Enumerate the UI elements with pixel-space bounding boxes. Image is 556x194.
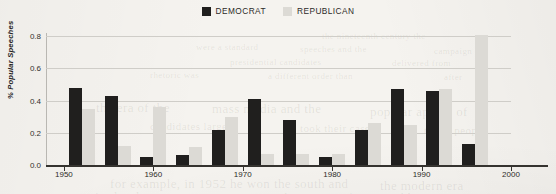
- plot-area: 0.00.20.40.60.8: [46, 33, 511, 165]
- bar-democrat-1988: [391, 89, 404, 165]
- y-axis-tick-label: 0.4: [30, 96, 41, 105]
- bar-republican-1992: [439, 89, 452, 165]
- x-axis-tick-label: 1950: [55, 170, 73, 179]
- chart-legend: DEMOCRAT REPUBLICAN: [0, 6, 556, 16]
- bar-democrat-1976: [283, 120, 296, 165]
- bar-democrat-1992: [426, 91, 439, 165]
- legend-label-democrat: DEMOCRAT: [216, 6, 266, 16]
- x-axis-tick-label: 1970: [234, 170, 252, 179]
- bar-republican-1956: [118, 146, 131, 165]
- bar-republican-1984: [368, 123, 381, 165]
- y-axis-tick-label: 0.2: [30, 128, 41, 137]
- bar-democrat-1980: [319, 157, 332, 165]
- legend-item-democrat[interactable]: DEMOCRAT: [202, 6, 266, 16]
- y-axis-tick-label: 0.6: [30, 64, 41, 73]
- x-axis-tick-label: 1980: [323, 170, 341, 179]
- y-axis-title: % Popular Speeches: [6, 21, 15, 99]
- bar-republican-1964: [189, 147, 202, 165]
- bar-republican-1960: [153, 107, 166, 165]
- x-axis-tick-label: 1990: [413, 170, 431, 179]
- bar-republican-1976: [296, 154, 309, 165]
- bar-republican-1980: [332, 154, 345, 165]
- gridline: 0.6: [46, 68, 511, 69]
- bar-republican-1988: [404, 125, 417, 165]
- bar-democrat-1996: [462, 144, 475, 165]
- bar-democrat-1964: [176, 155, 189, 165]
- legend-label-republican: REPUBLICAN: [297, 6, 355, 16]
- x-axis-tick-label: 2000: [502, 170, 520, 179]
- gridline: 0.8: [46, 36, 511, 37]
- legend-item-republican[interactable]: REPUBLICAN: [283, 6, 355, 16]
- y-axis-tick-label: 0.0: [30, 161, 41, 170]
- bar-democrat-1972: [248, 99, 261, 165]
- bar-democrat-1968: [212, 130, 225, 165]
- x-axis-tick-label: 1960: [144, 170, 162, 179]
- bar-democrat-1960: [140, 157, 153, 165]
- square-swatch-icon: [202, 7, 211, 16]
- bar-democrat-1956: [105, 96, 118, 165]
- y-axis-tick-label: 0.8: [30, 32, 41, 41]
- bar-republican-1952: [82, 109, 95, 165]
- square-swatch-icon: [283, 7, 292, 16]
- bar-republican-1996: [475, 35, 488, 165]
- bar-democrat-1984: [355, 130, 368, 165]
- bar-democrat-1952: [69, 88, 82, 165]
- bar-republican-1972: [261, 154, 274, 165]
- bar-republican-1968: [225, 117, 238, 165]
- x-axis-line: [46, 165, 548, 167]
